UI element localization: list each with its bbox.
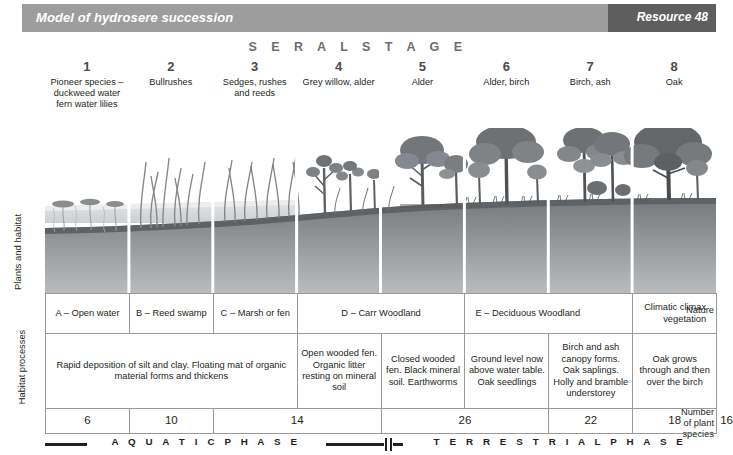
stage-number: 6 [467,60,545,74]
phase-rule-left [45,443,87,446]
phase-rule-right-stub [393,443,403,446]
stage-column-3: 3 Sedges, rushes and reeds [213,60,297,138]
table-row-processes: Rapid deposition of silt and clay. Float… [46,334,717,409]
stage-label: Alder [384,77,462,88]
nature-cell: A – Open water [46,294,130,334]
stage-column-7: 7 Birch, ash [548,60,632,138]
stage6-alder-birch [468,128,547,204]
plants-and-habitat-label: Plants and habitat [6,212,28,292]
stage-label: Bullrushes [132,77,210,88]
stage-header-row: 1 Pioneer species – duckweed water fern … [45,60,716,138]
species-count-cell: 14 [213,409,381,434]
habitat-processes-row-label: Habitat processes [10,336,34,398]
stage5-alder [395,136,468,208]
terrestrial-phase-label: T E R R E S T R I A L P H A S E [415,436,705,447]
nature-cell: Climatic climax vegetation [633,294,717,334]
process-cell: Ground level now above water table. Oak … [465,334,549,409]
stage-column-6: 6 Alder, birch [464,60,548,138]
phase-divider-tick-1 [385,438,387,451]
resource-badge: Resource 48 [608,4,716,32]
nature-cell: B – Reed swamp [129,294,213,334]
stage-label: Pioneer species – duckweed water fern wa… [48,77,126,111]
stage-column-5: 5 Alder [381,60,465,138]
resource-badge-label: Resource 48 [608,10,708,24]
nature-cell: C – Marsh or fen [213,294,297,334]
species-count-cell: 6 [46,409,130,434]
stage-label: Oak [635,77,713,88]
succession-table: A – Open water B – Reed swamp C – Marsh … [45,293,717,434]
stage-label: Grey willow, alder [300,77,378,88]
stage7-birch-ash [557,128,635,202]
phase-divider-tick-2 [390,438,392,451]
species-count-cell: 22 [549,409,633,434]
species-count-cell: 18 [633,409,717,434]
page-title: Model of hydrosere succession [36,10,233,25]
species-count-cell: 10 [129,409,213,434]
phase-rule-mid [326,443,384,446]
nature-cell: E – Deciduous Woodland [465,294,633,334]
stage-column-4: 4 Grey willow, alder [297,60,381,138]
stage-column-8: 8 Oak [632,60,716,138]
stage8-oak [624,128,712,200]
stage-label: Alder, birch [467,77,545,88]
stage-number: 8 [635,60,713,74]
stage-label: Birch, ash [551,77,629,88]
header-bar: Model of hydrosere succession Resource 4… [22,4,716,32]
stage-number: 3 [216,60,294,74]
stage-column-2: 2 Bullrushes [129,60,213,138]
aquatic-phase-label: A Q U A T I C P H A S E [91,436,321,447]
process-cell: Closed wooded fen. Black mineral soil. E… [381,334,465,409]
stage-label: Sedges, rushes and reeds [216,77,294,99]
stage-number: 1 [48,60,126,74]
table-row-species-count: 6 10 14 26 22 18 16 [46,409,717,434]
nature-cell: D – Carr Woodland [297,294,465,334]
process-cell: Birch and ash canopy forms. Oak saplings… [549,334,633,409]
table-row-nature: A – Open water B – Reed swamp C – Marsh … [46,294,717,334]
stage-number: 4 [300,60,378,74]
process-cell: Rapid deposition of silt and clay. Float… [46,334,298,409]
seral-stage-heading: S E R A L S T A G E [0,40,716,54]
stage-number: 5 [384,60,462,74]
stage-number: 7 [551,60,629,74]
process-cell: Oak grows through and then over the birc… [633,334,717,409]
species-count-cell: 26 [381,409,549,434]
process-cell: Open wooded fen. Organic litter resting … [297,334,381,409]
succession-illustration [45,128,716,293]
phase-bar: A Q U A T I C P H A S E T E R R E S T R … [45,432,716,454]
stage-number: 2 [132,60,210,74]
stage-column-1: 1 Pioneer species – duckweed water fern … [45,60,129,138]
